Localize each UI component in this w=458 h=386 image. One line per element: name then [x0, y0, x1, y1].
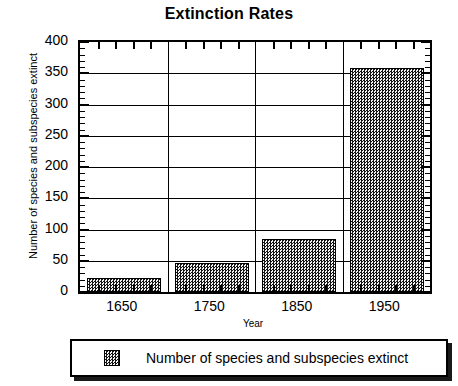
y-tick-minor-right: [425, 236, 430, 237]
y-tick-major-right: [421, 104, 430, 106]
y-tick-major-left: [80, 72, 89, 74]
y-tick-minor-left: [80, 180, 85, 181]
y-tick-minor-left: [80, 92, 85, 93]
x-tick-top: [325, 42, 327, 49]
y-tick-minor-right: [425, 223, 430, 224]
y-tick-minor-left: [80, 61, 85, 62]
x-tick-label-1750: 1750: [166, 298, 254, 314]
x-tick-bottom: [220, 285, 222, 292]
y-tick-label: 350: [0, 64, 72, 78]
y-tick-minor-left: [80, 280, 85, 281]
y-tick-minor-left: [80, 217, 85, 218]
chart-legend: Number of species and subspecies extinct: [70, 339, 448, 377]
y-tick-minor-left: [80, 186, 85, 187]
y-tick-minor-left: [80, 123, 85, 124]
x-tick-top: [98, 42, 100, 49]
x-tick-bottom: [203, 285, 205, 292]
y-tick-label: 200: [0, 158, 72, 172]
y-tick-major-right: [421, 229, 430, 231]
y-tick-minor-right: [425, 92, 430, 93]
y-tick-major-left: [80, 104, 89, 106]
y-tick-minor-left: [80, 223, 85, 224]
bar-1950: [350, 68, 424, 292]
x-tick-top: [413, 42, 415, 49]
y-tick-minor-right: [425, 61, 430, 62]
y-tick-minor-right: [425, 117, 430, 118]
y-tick-minor-left: [80, 255, 85, 256]
y-axis-tick-labels: 400350300250200150100500: [0, 0, 72, 386]
x-tick-bottom: [325, 285, 327, 292]
gridline-vertical: [168, 42, 169, 292]
y-tick-minor-right: [425, 186, 430, 187]
y-tick-minor-right: [425, 192, 430, 193]
x-axis-title: Year: [78, 318, 428, 330]
x-tick-bottom: [290, 285, 292, 292]
x-tick-label-1650: 1650: [78, 298, 166, 314]
y-tick-minor-left: [80, 211, 85, 212]
x-tick-bottom: [413, 285, 415, 292]
y-tick-minor-right: [425, 211, 430, 212]
y-tick-label: 250: [0, 127, 72, 141]
x-tick-bottom: [115, 285, 117, 292]
x-tick-bottom: [360, 285, 362, 292]
y-tick-minor-left: [80, 192, 85, 193]
x-tick-top: [238, 42, 240, 49]
y-tick-minor-left: [80, 267, 85, 268]
y-tick-minor-right: [425, 205, 430, 206]
y-tick-minor-right: [425, 142, 430, 143]
y-tick-minor-left: [80, 205, 85, 206]
y-tick-major-right: [421, 197, 430, 199]
x-tick-label-1950: 1950: [341, 298, 429, 314]
y-tick-minor-right: [425, 267, 430, 268]
y-tick-major-left: [80, 41, 89, 43]
y-tick-minor-right: [425, 55, 430, 56]
y-tick-minor-right: [425, 111, 430, 112]
y-tick-minor-left: [80, 161, 85, 162]
y-tick-minor-right: [425, 48, 430, 49]
y-tick-minor-right: [425, 67, 430, 68]
y-tick-minor-right: [425, 217, 430, 218]
y-tick-minor-right: [425, 286, 430, 287]
y-tick-minor-right: [425, 255, 430, 256]
y-tick-major-right: [421, 166, 430, 168]
y-tick-minor-left: [80, 86, 85, 87]
x-tick-top: [185, 42, 187, 49]
y-tick-major-left: [80, 166, 89, 168]
gridline-vertical: [343, 42, 344, 292]
y-tick-minor-left: [80, 155, 85, 156]
y-tick-minor-left: [80, 248, 85, 249]
y-tick-minor-right: [425, 242, 430, 243]
y-tick-minor-right: [425, 130, 430, 131]
x-axis-tick-labels: 1650175018501950: [78, 298, 428, 318]
x-tick-top: [220, 42, 222, 49]
x-tick-top: [115, 42, 117, 49]
y-tick-minor-left: [80, 236, 85, 237]
y-tick-minor-left: [80, 273, 85, 274]
x-tick-top: [360, 42, 362, 49]
y-tick-minor-right: [425, 280, 430, 281]
y-tick-minor-right: [425, 180, 430, 181]
y-tick-major-right: [421, 72, 430, 74]
chart-figure: Extinction Rates Number of species and s…: [0, 0, 458, 386]
x-tick-bottom: [308, 285, 310, 292]
y-tick-label: 0: [0, 283, 72, 297]
x-tick-top: [290, 42, 292, 49]
y-tick-minor-left: [80, 48, 85, 49]
y-tick-minor-left: [80, 130, 85, 131]
x-tick-bottom: [378, 285, 380, 292]
y-tick-minor-left: [80, 98, 85, 99]
x-tick-bottom: [98, 285, 100, 292]
y-tick-minor-right: [425, 248, 430, 249]
y-tick-minor-left: [80, 55, 85, 56]
legend-swatch-icon: [104, 350, 120, 366]
y-tick-major-right: [421, 291, 430, 293]
y-tick-major-right: [421, 260, 430, 262]
x-tick-top: [308, 42, 310, 49]
y-tick-minor-left: [80, 242, 85, 243]
y-tick-minor-left: [80, 111, 85, 112]
x-tick-top: [203, 42, 205, 49]
y-tick-label: 100: [0, 221, 72, 235]
y-tick-minor-right: [425, 161, 430, 162]
y-tick-major-left: [80, 135, 89, 137]
y-tick-minor-left: [80, 148, 85, 149]
